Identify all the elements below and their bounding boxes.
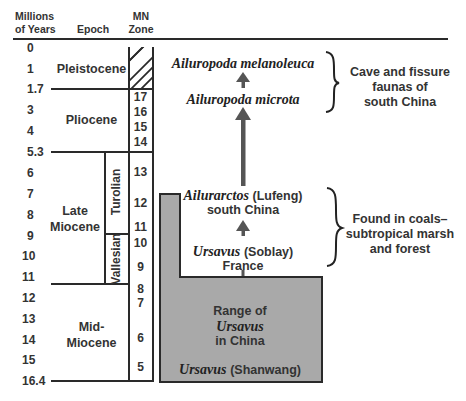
- range-line2: Ursavus: [180, 319, 300, 334]
- range-line1: Range of: [180, 304, 300, 319]
- note-coal-line1: Found in coals–: [345, 212, 455, 227]
- shanwang-name: Ursavus: [179, 362, 226, 377]
- brace-icon: [327, 188, 342, 266]
- range-line3: in China: [180, 334, 300, 349]
- shanwang-site: (Shanwang): [230, 363, 301, 377]
- arrow-up-icon: [236, 220, 250, 236]
- species-microta: Ailuropoda microta: [163, 92, 323, 107]
- ursavus-soblay-region: France: [173, 259, 313, 274]
- ailurarctos-site: (Lufeng): [253, 189, 303, 203]
- note-coal-line2: subtropical marsh: [345, 227, 455, 242]
- arrow-up-icon: [236, 72, 250, 88]
- brace-icon: [326, 52, 339, 112]
- note-cave-fissure: Cave and fissure faunas of south China: [345, 65, 455, 110]
- species-ursavus-soblay: Ursavus (Soblay): [173, 244, 313, 260]
- species-melanoleuca: Ailuropoda melanoleuca: [163, 56, 323, 71]
- note-coal-line3: and forest: [345, 242, 455, 257]
- species-ursavus-shanwang: Ursavus (Shanwang): [165, 362, 315, 378]
- species-ailurarctos: Ailurarctos (Lufeng): [173, 188, 313, 204]
- arrow-up-icon: [235, 107, 251, 186]
- note-cave-line3: south China: [345, 95, 455, 110]
- ursavus-soblay-site: (Soblay): [244, 245, 293, 259]
- ailurarctos-name: Ailurarctos: [184, 188, 249, 203]
- note-cave-line2: faunas of: [345, 80, 455, 95]
- note-coals: Found in coals– subtropical marsh and fo…: [345, 212, 455, 257]
- note-cave-line1: Cave and fissure: [345, 65, 455, 80]
- ailurarctos-region: south China: [173, 203, 313, 218]
- ursavus-soblay-name: Ursavus: [193, 244, 240, 259]
- ursavus-range-shape: [160, 194, 322, 382]
